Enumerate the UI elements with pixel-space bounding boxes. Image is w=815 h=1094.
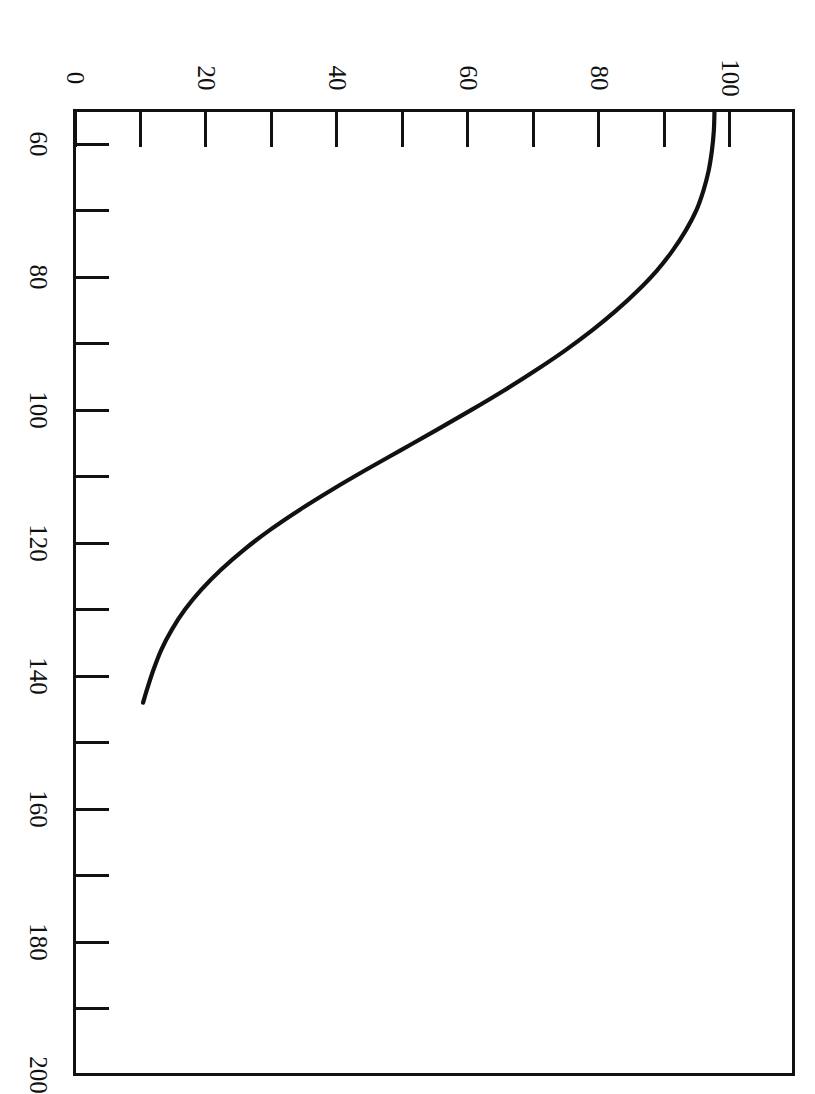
top-axis-major-tick	[204, 109, 207, 147]
left-axis-major-tick	[73, 276, 109, 279]
left-axis-tick-label: 180	[26, 923, 51, 961]
caption-fragment	[0, 0, 815, 9]
left-axis-minor-tick	[73, 741, 109, 744]
top-axis-major-tick	[597, 109, 600, 147]
left-axis-major-tick	[73, 941, 109, 944]
left-axis-major-tick	[73, 542, 109, 545]
left-axis-tick-label: 140	[26, 657, 51, 695]
top-axis-minor-tick	[270, 109, 273, 147]
top-axis-minor-tick	[532, 109, 535, 147]
top-axis-minor-tick	[663, 109, 666, 147]
left-axis-tick-label: 160	[26, 790, 51, 828]
left-axis-minor-tick	[73, 1007, 109, 1010]
left-axis-minor-tick	[73, 342, 109, 345]
top-axis-tick-label: 80	[586, 66, 611, 91]
left-axis-major-tick	[73, 143, 109, 146]
left-axis-tick-label: 120	[26, 524, 51, 562]
top-axis-major-tick	[335, 109, 338, 147]
left-axis-minor-tick	[73, 874, 109, 877]
top-axis-tick-label: 20	[193, 66, 218, 91]
left-axis-minor-tick	[73, 475, 109, 478]
top-axis-major-tick	[466, 109, 469, 147]
top-axis-minor-tick	[401, 109, 404, 147]
top-axis-major-tick	[74, 109, 77, 147]
top-axis-tick-label: 60	[455, 66, 480, 91]
left-axis-tick-label: 80	[26, 265, 51, 290]
top-axis-major-tick	[728, 109, 731, 147]
top-axis-minor-tick	[139, 109, 142, 147]
figure-canvas: 0204060801006080100120140160180200	[0, 0, 815, 1094]
plot-frame	[73, 109, 795, 1076]
left-axis-minor-tick	[73, 608, 109, 611]
left-axis-tick-label: 200	[26, 1056, 51, 1094]
left-axis-tick-label: 60	[26, 132, 51, 157]
left-axis-tick-label: 100	[26, 391, 51, 429]
left-axis-major-tick	[73, 808, 109, 811]
top-axis-tick-label: 0	[63, 72, 88, 85]
top-axis-tick-label: 100	[717, 59, 742, 97]
left-axis-major-tick	[73, 409, 109, 412]
left-axis-minor-tick	[73, 209, 109, 212]
top-axis-tick-label: 40	[324, 66, 349, 91]
left-axis-major-tick	[73, 675, 109, 678]
